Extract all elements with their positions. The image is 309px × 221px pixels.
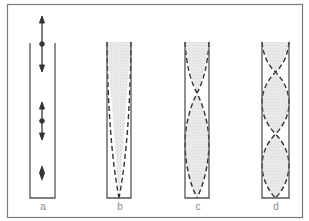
displacement-arrow-small (39, 165, 45, 181)
displacement-arrow-large (40, 16, 45, 72)
panel-d (262, 42, 289, 198)
label-a: a (33, 202, 53, 212)
label-b: b (110, 202, 130, 212)
panel-b (107, 42, 131, 198)
label-d: d (266, 202, 286, 212)
panel-a (30, 16, 55, 198)
label-c: c (188, 202, 208, 212)
outer-frame (8, 5, 303, 218)
displacement-arrow-medium (40, 102, 45, 140)
tube-modes-diagram (0, 0, 309, 221)
wave-fill-d (262, 42, 289, 198)
panel-c (185, 42, 209, 198)
wave-fill-b (107, 42, 131, 198)
